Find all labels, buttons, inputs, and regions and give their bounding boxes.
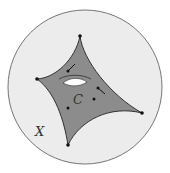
space-label: X [34,124,45,139]
diagram-svg: C X [0,0,170,173]
figure: C X [0,0,170,173]
surface-label: C [73,92,83,107]
